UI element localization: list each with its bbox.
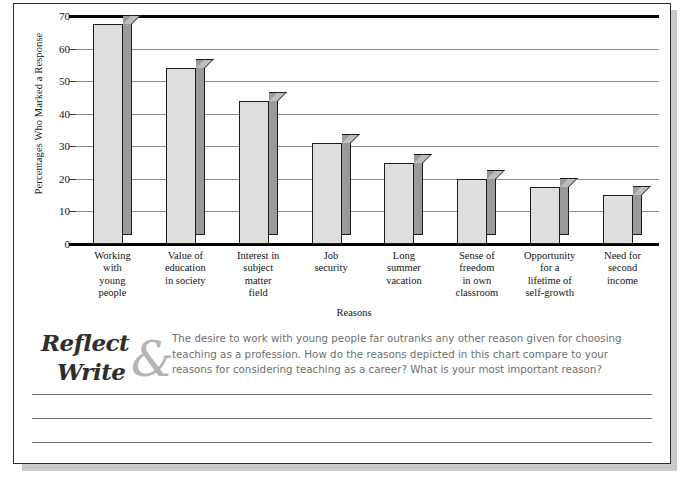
bar <box>457 170 496 244</box>
y-tick-mark <box>69 114 76 115</box>
bar <box>239 92 278 244</box>
bar-front-face <box>166 68 196 244</box>
gridline <box>76 114 659 115</box>
bar <box>603 186 642 244</box>
bar <box>530 178 569 244</box>
y-axis-tick-labels: 010203040506070 <box>30 16 70 244</box>
y-tick-label: 70 <box>30 10 70 22</box>
bar-front-face <box>93 24 123 244</box>
bar-front-face <box>239 101 269 244</box>
gridline <box>76 15 659 18</box>
bar-side-face <box>196 59 205 235</box>
plot-area <box>76 16 659 244</box>
writing-line[interactable] <box>32 418 652 419</box>
y-tick-mark <box>69 243 76 246</box>
bar <box>93 15 132 244</box>
gridline <box>76 81 659 82</box>
bar-side-face <box>487 170 496 235</box>
x-tick-label: Need for second income <box>580 250 665 287</box>
x-axis-label: Reasons <box>14 307 672 318</box>
page-root: Percentages Who Marked a Response 010203… <box>0 0 682 481</box>
y-tick-mark <box>69 49 76 50</box>
bar <box>312 134 351 244</box>
bar-side-face <box>123 15 132 235</box>
logo-word-write: Write <box>57 358 125 385</box>
logo-ampersand-icon: & <box>131 335 174 383</box>
gridline <box>76 49 659 50</box>
reflect-and-write-logo: Reflect & Write <box>39 329 189 397</box>
bar-front-face <box>457 179 487 244</box>
y-tick-mark <box>69 211 76 212</box>
bar-chart: Percentages Who Marked a Response 010203… <box>14 4 672 334</box>
writing-line[interactable] <box>32 442 652 443</box>
bar-side-face <box>414 154 423 235</box>
y-tick-label: 20 <box>30 173 70 185</box>
y-tick-mark <box>69 146 76 147</box>
y-tick-label: 50 <box>30 75 70 87</box>
writing-line[interactable] <box>32 394 652 395</box>
y-tick-label: 40 <box>30 108 70 120</box>
reflect-write-prompt: The desire to work with young people far… <box>172 331 648 378</box>
y-tick-label: 10 <box>30 205 70 217</box>
bar-side-face <box>342 134 351 235</box>
page-card: Percentages Who Marked a Response 010203… <box>13 3 671 464</box>
bar <box>166 59 205 244</box>
bar-side-face <box>269 92 278 235</box>
bar-front-face <box>312 143 342 244</box>
gridline <box>76 211 659 212</box>
y-tick-label: 0 <box>30 238 70 250</box>
bar-front-face <box>603 195 633 244</box>
bar-front-face <box>530 187 560 244</box>
gridline <box>76 146 659 147</box>
bar-front-face <box>384 163 414 244</box>
y-tick-mark <box>69 81 76 82</box>
logo-word-reflect: Reflect <box>41 329 129 356</box>
gridline <box>76 243 659 246</box>
y-tick-mark <box>69 179 76 180</box>
x-axis-label-text: Reasons <box>337 307 372 318</box>
y-tick-label: 60 <box>30 43 70 55</box>
y-tick-mark <box>69 15 76 18</box>
bar <box>384 154 423 244</box>
y-tick-label: 30 <box>30 140 70 152</box>
